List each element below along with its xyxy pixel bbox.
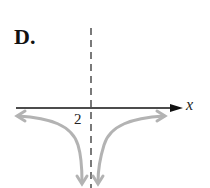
- x-axis-label: x: [186, 96, 193, 114]
- graph: [0, 0, 210, 188]
- right-branch: [93, 111, 165, 184]
- tick-label-2: 2: [74, 111, 82, 128]
- x-axis-arrow-icon: [170, 104, 183, 112]
